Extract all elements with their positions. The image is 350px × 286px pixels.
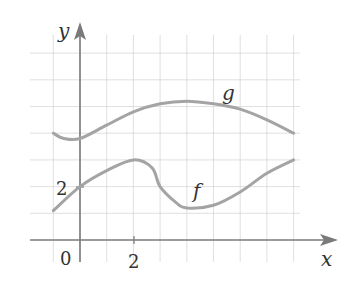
x-tick-label-2: 2 (128, 251, 139, 272)
curve-f-label: f (191, 179, 204, 203)
x-axis-label: x (321, 247, 332, 271)
curve-f (53, 160, 293, 211)
grid-lines (30, 35, 300, 262)
origin-label: 0 (60, 248, 71, 269)
graph-figure: y x 0 2 2 g f (0, 0, 350, 286)
y-tick-label-2: 2 (56, 178, 67, 199)
curve-g (53, 101, 293, 140)
y-axis-label: y (57, 19, 70, 43)
curve-g-label: g (222, 81, 235, 105)
